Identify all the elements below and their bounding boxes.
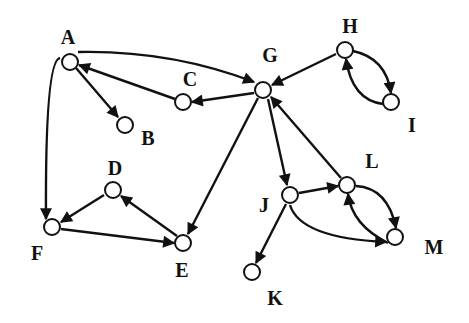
edge-e-to-d — [121, 196, 177, 236]
nodes-layer: ABCGHIDFEJLMK — [31, 15, 444, 309]
node-label: E — [175, 259, 188, 281]
node-circle — [117, 117, 133, 133]
node-circle — [62, 54, 78, 70]
node-label: F — [31, 242, 43, 264]
node-label: A — [61, 26, 76, 48]
edge-a-to-f — [46, 58, 60, 219]
node-circle — [105, 182, 121, 198]
node-label: K — [267, 287, 283, 309]
node-a: A — [61, 26, 78, 70]
node-circle — [383, 94, 399, 110]
node-e: E — [175, 235, 191, 281]
edge-g-to-c — [192, 93, 254, 102]
edge-g-to-e — [188, 98, 258, 234]
node-circle — [175, 235, 191, 251]
node-label: H — [342, 15, 358, 37]
node-label: L — [365, 150, 378, 172]
node-label: C — [183, 68, 197, 90]
edge-h-to-i — [353, 51, 391, 93]
node-label: M — [425, 236, 444, 258]
node-circle — [339, 177, 355, 193]
node-label: D — [108, 157, 122, 179]
node-circle — [255, 82, 271, 98]
node-label: I — [408, 114, 416, 136]
node-m: M — [387, 229, 444, 258]
node-circle — [175, 94, 191, 110]
edge-f-to-e — [61, 229, 174, 243]
node-f: F — [31, 219, 60, 264]
directed-graph: ABCGHIDFEJLMK — [0, 0, 469, 323]
node-i: I — [383, 94, 416, 136]
edge-c-to-a — [79, 65, 175, 99]
node-label: J — [259, 194, 269, 216]
edge-m-to-l — [348, 194, 388, 243]
node-circle — [337, 42, 353, 58]
node-circle — [282, 187, 298, 203]
edge-j-to-m — [290, 205, 386, 242]
node-c: C — [175, 68, 197, 110]
edge-i-to-h — [346, 59, 383, 104]
edge-h-to-g — [272, 54, 336, 85]
node-label: G — [262, 44, 278, 66]
edges-layer — [46, 51, 396, 263]
node-circle — [387, 229, 403, 245]
edge-l-to-m — [356, 186, 396, 228]
node-d: D — [105, 157, 122, 198]
edge-j-to-l — [299, 186, 338, 193]
node-k: K — [244, 264, 283, 309]
node-label: B — [141, 127, 154, 149]
node-g: G — [255, 44, 278, 98]
edge-l-to-g — [271, 97, 341, 178]
node-circle — [44, 219, 60, 235]
node-b: B — [117, 117, 155, 149]
node-circle — [244, 264, 260, 280]
edge-a-to-g — [78, 52, 254, 82]
edge-d-to-f — [61, 195, 104, 222]
